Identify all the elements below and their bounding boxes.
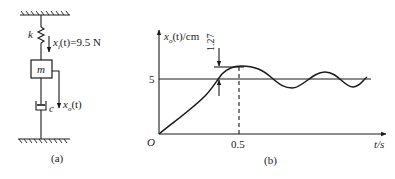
figure-a-mass-spring-damper bbox=[18, 11, 70, 143]
x-axis-label: t/s bbox=[374, 139, 384, 150]
spring-icon bbox=[38, 15, 44, 60]
input-rest: (t)=9.5 N bbox=[60, 36, 101, 48]
output-displacement-label: xo(t) bbox=[63, 99, 82, 113]
caption-b: (b) bbox=[264, 155, 277, 166]
output-rest: (t) bbox=[71, 98, 81, 110]
damper-label: c bbox=[49, 103, 54, 114]
y-rest: (t)/cm bbox=[172, 30, 199, 42]
origin-label: O bbox=[147, 137, 155, 148]
input-force-label: xi(t)=9.5 N bbox=[53, 37, 101, 51]
figure-b-step-response bbox=[159, 30, 386, 134]
mass-label: m bbox=[37, 64, 45, 75]
bottom-ground-icon bbox=[18, 139, 70, 143]
y-tick-5: 5 bbox=[149, 74, 155, 85]
caption-a: (a) bbox=[51, 153, 63, 164]
top-ground-icon bbox=[20, 11, 70, 15]
x-tick-0-5: 0.5 bbox=[231, 139, 245, 150]
response-curve bbox=[159, 66, 367, 134]
damper-icon bbox=[36, 101, 46, 139]
spring-label: k bbox=[28, 29, 33, 40]
overshoot-annotation: 1.27 bbox=[206, 34, 216, 52]
y-axis-label: xo(t)/cm bbox=[164, 31, 199, 45]
